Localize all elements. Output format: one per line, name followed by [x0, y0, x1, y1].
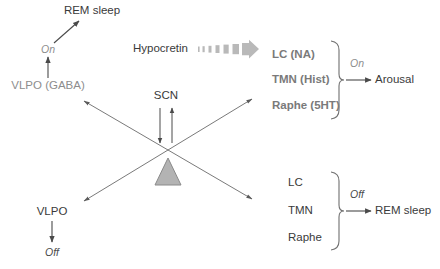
sleep-switch-diagram: REM sleep On VLPO (GABA) VLPO Off SCN Hy… [0, 0, 440, 269]
hypocretin-gradient-arrow [198, 40, 259, 59]
label-nucleus-raphe-5ht: Raphe (5HT) [272, 100, 340, 112]
label-nucleus-lc: LC [288, 177, 303, 189]
label-rem-sleep-bottom: REM sleep [375, 205, 431, 217]
label-nucleus-tmn: TMN [288, 205, 313, 217]
label-scn: SCN [154, 90, 178, 102]
label-on-top-right: On [350, 58, 364, 69]
label-nucleus-raphe: Raphe [288, 232, 322, 244]
label-hypocretin: Hypocretin [133, 43, 188, 55]
label-nucleus-lc-na: LC (NA) [272, 49, 315, 61]
label-arousal: Arousal [375, 74, 414, 86]
brace-rem-sleep-group [331, 172, 344, 250]
label-vlpo-bottom: VLPO [37, 206, 68, 218]
label-vlpo-gaba: VLPO (GABA) [11, 80, 85, 92]
seesaw-line-lowerleft-upperright [84, 99, 252, 201]
arrow-on-to-rem-sleep [54, 21, 79, 43]
diagram-graphics-layer [0, 0, 440, 269]
triangle-fulcrum [155, 158, 181, 185]
label-on-top-left: On [41, 44, 55, 55]
label-off-bottom-right: Off [350, 189, 364, 200]
label-off-bottom-left: Off [45, 247, 59, 258]
label-nucleus-tmn-hist: TMN (Hist) [272, 74, 330, 86]
label-rem-sleep-top: REM sleep [64, 5, 120, 17]
